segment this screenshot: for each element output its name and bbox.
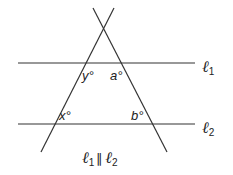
angle-b-label: b°: [131, 108, 143, 123]
geometry-diagram: ℓ1 ℓ2 y° a° x° b° ℓ1∥ℓ2: [0, 0, 233, 175]
angle-y-label: y°: [81, 68, 94, 83]
transversal-left: [41, 8, 114, 152]
label-l2: ℓ2: [202, 119, 215, 138]
transversal-right: [93, 8, 167, 152]
parallel-caption: ℓ1∥ℓ2: [82, 149, 118, 168]
angle-a-label: a°: [110, 68, 122, 83]
label-l1: ℓ1: [202, 58, 215, 77]
angle-x-label: x°: [58, 108, 71, 123]
